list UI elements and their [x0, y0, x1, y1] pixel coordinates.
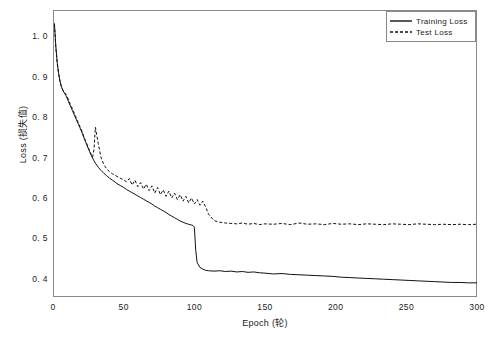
test-loss-line [54, 24, 477, 224]
chart-legend: Training Loss Test Loss [386, 11, 476, 42]
x-tick-label: 50 [104, 302, 144, 312]
legend-label-test-loss: Test Loss [416, 28, 453, 37]
y-tick-label: 0. 5 [14, 233, 48, 243]
legend-label-training-loss: Training Loss [416, 17, 468, 26]
x-tick-label: 250 [386, 302, 426, 312]
y-axis-label: Loss (损失值) [16, 75, 29, 195]
x-axis-label: Epoch (轮) [53, 316, 477, 329]
x-tick-label: 100 [174, 302, 214, 312]
legend-item-training-loss: Training Loss [390, 16, 471, 26]
legend-swatch-dashed-icon [390, 28, 412, 36]
y-tick-label: 0. 4 [14, 274, 48, 284]
x-tick-label: 0 [33, 302, 73, 312]
training-loss-line [54, 23, 477, 283]
x-tick-label: 300 [457, 302, 492, 312]
y-tick-label: 1. 0 [14, 31, 48, 41]
x-tick-label: 200 [316, 302, 356, 312]
legend-swatch-solid-icon [390, 17, 412, 25]
chart-figure: 0. 40. 50. 60. 70. 80. 91. 0 05010015020… [0, 0, 492, 342]
x-tick-label: 150 [245, 302, 285, 312]
legend-item-test-loss: Test Loss [390, 27, 471, 37]
plot-lines [53, 10, 477, 297]
